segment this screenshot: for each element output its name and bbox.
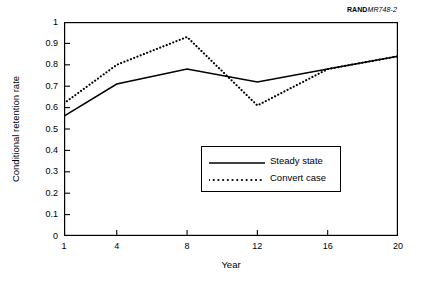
report-number-text: MR748-2 xyxy=(368,6,398,13)
legend-item: Convert case xyxy=(202,169,340,187)
y-axis-title: Conditional retention rate xyxy=(9,22,23,236)
y-tick-label: 0.5 xyxy=(22,125,58,134)
chart-svg xyxy=(64,22,398,236)
y-tick-label: 0.4 xyxy=(22,146,58,155)
y-axis-tick-labels: 00.10.20.30.40.50.60.70.80.91 xyxy=(22,22,58,236)
legend-line-sample xyxy=(209,172,265,184)
y-tick-label: 0.9 xyxy=(22,39,58,48)
x-axis-tick-labels: 148121620 xyxy=(64,241,398,253)
report-identifier: RANDMR748-2 xyxy=(347,6,397,13)
y-tick-label: 0.1 xyxy=(22,210,58,219)
rand-logo-text: RAND xyxy=(347,6,368,13)
y-tick-label: 0.6 xyxy=(22,103,58,112)
y-tick-label: 0.8 xyxy=(22,60,58,69)
y-tick-label: 0.7 xyxy=(22,82,58,91)
series-line-convert-case xyxy=(64,37,398,105)
x-tick-label: 12 xyxy=(242,241,272,252)
y-tick-label: 1 xyxy=(22,18,58,27)
x-tick-label: 4 xyxy=(102,241,132,252)
legend-line-sample xyxy=(209,155,265,167)
x-tick-label: 20 xyxy=(383,241,413,252)
y-tick-label: 0.3 xyxy=(22,167,58,176)
plot-frame xyxy=(65,23,398,236)
x-tick-label: 1 xyxy=(49,241,79,252)
legend-label: Convert case xyxy=(270,172,326,184)
chart-legend: Steady stateConvert case xyxy=(201,146,341,192)
x-axis-title: Year xyxy=(64,259,398,270)
figure-container: RANDMR748-2 Conditional retention rate 0… xyxy=(0,0,422,284)
y-tick-label: 0 xyxy=(22,232,58,241)
x-tick-label: 8 xyxy=(172,241,202,252)
legend-item: Steady state xyxy=(202,152,340,170)
x-tick-label: 16 xyxy=(313,241,343,252)
plot-area xyxy=(64,22,398,236)
legend-label: Steady state xyxy=(270,155,323,167)
y-tick-label: 0.2 xyxy=(22,189,58,198)
